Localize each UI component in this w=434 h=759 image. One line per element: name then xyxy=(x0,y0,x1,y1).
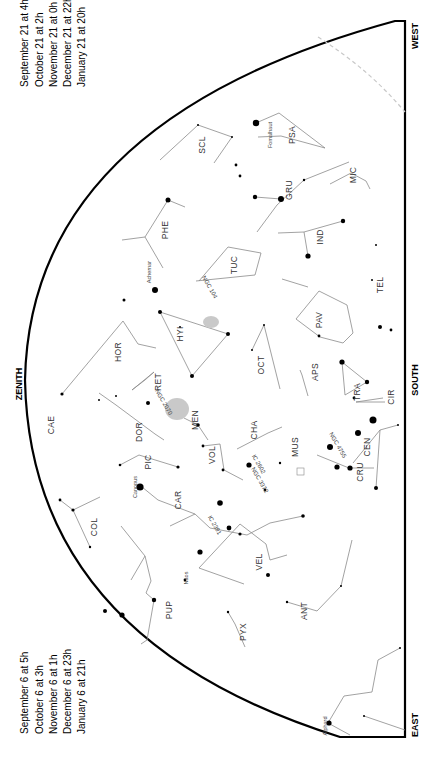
star-name-label: Canopus xyxy=(132,476,138,498)
times-bottom: September 6 at 5h October 6 at 3h Novemb… xyxy=(19,649,87,734)
star-name-label: Achernar xyxy=(146,261,152,283)
time-line: September 6 at 5h xyxy=(19,652,30,734)
constellation-label: CIR xyxy=(386,389,396,405)
constellation-labels: SCLPSAMICGRUPHEINDTUCTELHORHYIPAVOCTAPSR… xyxy=(46,126,396,641)
zenith-label: ZENITH xyxy=(14,368,24,401)
west-label: WEST xyxy=(410,22,420,49)
time-line: January 6 at 21h xyxy=(76,660,87,735)
constellation-label: TEL xyxy=(375,277,385,294)
constellation-label: PSA xyxy=(287,126,297,144)
time-line: October 6 at 3h xyxy=(34,665,45,734)
constellation-label: CRU xyxy=(355,462,365,481)
star-name-label: Alphard xyxy=(322,717,328,736)
constellation-label: DOR xyxy=(134,422,144,442)
constellation-label: MUS xyxy=(290,437,300,457)
deep-sky-label: IC 2391 xyxy=(207,514,223,536)
time-line: September 21 at 4h xyxy=(19,0,30,87)
constellation-label: MIC xyxy=(348,167,358,183)
constellation-label: COL xyxy=(89,518,99,536)
star-name-label: Fomalhaut xyxy=(267,122,273,148)
constellation-label: PUP xyxy=(164,601,174,619)
constellation-label: APS xyxy=(310,363,320,381)
constellation-label: GRU xyxy=(284,180,294,200)
time-line: December 21 at 22h xyxy=(62,0,73,87)
constellation-label: CEN xyxy=(362,438,372,457)
time-line: January 21 at 20h xyxy=(76,7,87,87)
time-line: December 6 at 23h xyxy=(62,649,73,734)
times-top: September 21 at 4h October 21 at 2h Nove… xyxy=(19,0,87,87)
constellation-label: TUC xyxy=(229,256,239,274)
constellation-label: CAE xyxy=(46,416,56,434)
constellation-label: VOL xyxy=(207,446,217,464)
constellation-label: PIC xyxy=(143,454,153,469)
south-label: SOUTH xyxy=(410,364,420,396)
constellation-lines xyxy=(60,113,405,735)
constellation-label: TRA xyxy=(352,383,362,401)
deep-sky-label: NGC 104 xyxy=(201,275,219,300)
time-line: October 21 at 2h xyxy=(34,13,45,88)
time-line: November 6 at 1h xyxy=(48,655,59,735)
constellation-label: VEL xyxy=(254,554,264,571)
constellation-label: OCT xyxy=(256,356,266,375)
constellation-label: PAV xyxy=(314,312,324,329)
horizon-outline xyxy=(25,21,405,737)
constellation-label: PYX xyxy=(238,623,248,641)
stars xyxy=(59,120,401,726)
ngc3372-marker xyxy=(297,468,304,475)
small-magellanic-cloud xyxy=(203,316,219,328)
constellation-label: SCL xyxy=(197,136,207,153)
time-line: November 21 at 0h xyxy=(48,2,59,87)
constellation-label: MEN xyxy=(190,410,200,430)
sky-chart: ZENITH SOUTH EAST WEST September 21 at 4… xyxy=(0,0,434,759)
constellation-label: HYI xyxy=(175,326,185,341)
constellation-label: CAR xyxy=(173,491,183,510)
constellation-label: ANT xyxy=(299,602,309,620)
constellation-label: CHA xyxy=(249,421,259,440)
east-label: EAST xyxy=(410,712,420,737)
constellation-label: PHE xyxy=(160,221,170,239)
constellation-label: HOR xyxy=(113,342,123,362)
star-name-label: Naos xyxy=(183,571,189,584)
ecliptic-line xyxy=(318,37,405,112)
star-name-labels: FomalhautAchernarCanopusNaosAlphard xyxy=(132,122,328,736)
constellation-label: IND xyxy=(315,229,325,245)
